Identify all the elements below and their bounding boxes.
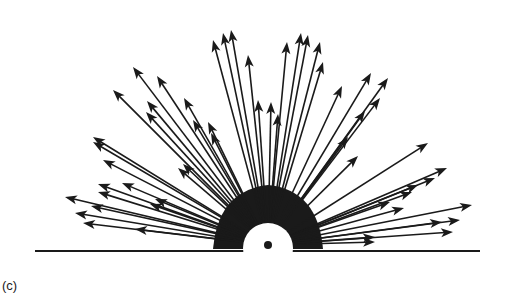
figure-caption: (c) (2, 278, 17, 293)
arrowhead-icon (369, 98, 380, 110)
ray-fan-diagram (0, 0, 515, 300)
arrow-rays (65, 30, 472, 249)
arrowhead-icon (133, 67, 144, 79)
hemisphere-mask (242, 252, 294, 282)
ray-line (161, 83, 268, 245)
arrowhead-icon (415, 143, 428, 153)
arrowhead-icon (184, 98, 194, 111)
arrowhead-icon (377, 78, 388, 90)
arrowhead-icon (157, 76, 167, 89)
source-dot-icon (264, 241, 272, 249)
arrowhead-icon (361, 73, 371, 86)
